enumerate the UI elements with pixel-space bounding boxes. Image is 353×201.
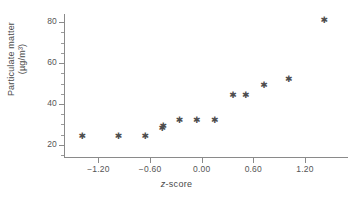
x-axis-title-rest: -score xyxy=(166,179,193,189)
y-axis-title-line1: Particulate matter xyxy=(6,22,16,96)
x-axis-title: z-score xyxy=(0,179,353,189)
data-point: ✱ xyxy=(211,117,218,124)
x-tick-label-3: 0.60 xyxy=(245,164,262,174)
x-tick-1 xyxy=(150,158,151,163)
x-tick-4 xyxy=(305,158,306,163)
data-point: ✱ xyxy=(229,92,236,99)
x-tick-3 xyxy=(253,158,254,163)
data-point: ✱ xyxy=(193,117,200,124)
x-tick-label-4: 1.20 xyxy=(296,164,313,174)
x-tick-label-2: 0.00 xyxy=(193,164,210,174)
data-point: ✱ xyxy=(260,82,267,89)
plot-area xyxy=(64,14,348,157)
data-point: ✱ xyxy=(79,133,86,140)
y-tick-label-60: 60 xyxy=(47,57,57,67)
x-tick-label-0: −1.20 xyxy=(87,164,110,174)
x-tick-label-1: −0.60 xyxy=(139,164,162,174)
y-axis-title-line2: (µg/m³) xyxy=(17,0,28,124)
data-point: ✱ xyxy=(115,133,122,140)
x-tick-2 xyxy=(202,158,203,163)
data-point: ✱ xyxy=(141,133,148,140)
data-point: ✱ xyxy=(285,76,292,83)
data-point: ✱ xyxy=(160,123,167,130)
y-tick-label-20: 20 xyxy=(47,139,57,149)
x-tick-0 xyxy=(98,158,99,163)
y-tick-label-40: 40 xyxy=(47,98,57,108)
y-axis-title: Particulate matter (µg/m³) xyxy=(6,0,28,124)
y-tick-label-80: 80 xyxy=(47,16,57,26)
data-point: ✱ xyxy=(176,117,183,124)
scatter-chart-figure: 20406080 −1.20−0.600.000.601.20 z-score … xyxy=(0,0,353,201)
data-point: ✱ xyxy=(242,92,249,99)
data-point: ✱ xyxy=(320,17,327,24)
